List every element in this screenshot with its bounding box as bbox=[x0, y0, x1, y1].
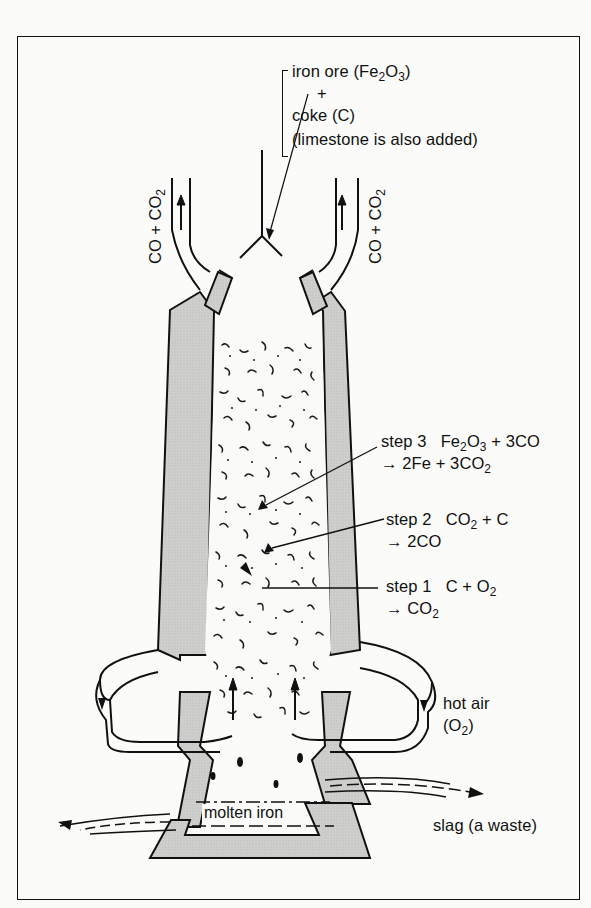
inputs-bracket bbox=[282, 70, 288, 157]
step2-label: step 2 CO2 + C bbox=[386, 510, 508, 529]
step3-label: step 3 Fe2O3 + 3CO bbox=[381, 432, 540, 451]
step1-label: step 1 C + O2 bbox=[386, 577, 496, 596]
input-plus: + bbox=[317, 84, 327, 103]
hot-air-label: hot air bbox=[443, 694, 490, 713]
iron-tap-arrow bbox=[58, 820, 72, 830]
hot-air-formula: (O2) bbox=[443, 716, 474, 735]
furnace-bosh-right bbox=[312, 692, 370, 804]
exhaust-arrow-left bbox=[177, 195, 185, 230]
iron-tap-outflow bbox=[60, 814, 176, 834]
hood-plate-left bbox=[205, 272, 232, 314]
input-coke: coke (C) bbox=[292, 106, 355, 125]
slag-arrow bbox=[468, 787, 484, 798]
exhaust-arrow-right bbox=[338, 195, 346, 230]
exhaust-label-right: CO + CO2 bbox=[366, 189, 385, 264]
hood-plate-right bbox=[300, 272, 327, 314]
molten-iron-label: molten iron bbox=[202, 804, 285, 822]
exhaust-label-left: CO + CO2 bbox=[146, 189, 165, 264]
molten-drops bbox=[211, 753, 304, 788]
step2-products: → 2CO bbox=[386, 532, 442, 551]
input-iron-ore: iron ore (Fe2O3) bbox=[292, 62, 411, 81]
step1-products: → CO2 bbox=[386, 599, 439, 618]
step3-products: → 2Fe + 3CO2 bbox=[381, 454, 491, 473]
charge-material bbox=[205, 333, 331, 720]
furnace-wall-left-stack bbox=[158, 292, 214, 660]
input-limestone: (limestone is also added) bbox=[292, 130, 478, 149]
slag-label: slag (a waste) bbox=[433, 816, 537, 835]
hot-air-arrow-right bbox=[420, 700, 428, 712]
